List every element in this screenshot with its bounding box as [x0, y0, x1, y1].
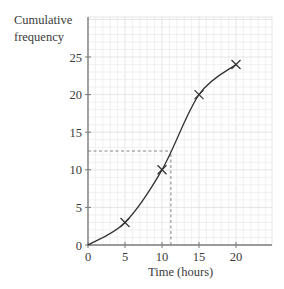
y-tick-label: 15	[70, 126, 83, 140]
x-tick-label: 20	[230, 250, 243, 264]
x-tick-label: 10	[156, 250, 169, 264]
y-tick-label: 20	[70, 88, 83, 102]
x-tick-label: 0	[85, 250, 91, 264]
x-tick-label: 15	[193, 250, 206, 264]
y-tick-label: 5	[76, 201, 82, 215]
y-tick-label: 0	[76, 239, 82, 253]
y-tick-label: 10	[70, 163, 83, 177]
data-point-markers	[121, 60, 241, 227]
x-axis-label: Time (hours)	[148, 265, 213, 280]
chart-plot: 05101520 0510152025	[0, 0, 284, 289]
annotation-dashed-lines	[88, 151, 171, 245]
x-tick-label: 5	[122, 250, 128, 264]
y-tick-label: 25	[70, 51, 83, 65]
